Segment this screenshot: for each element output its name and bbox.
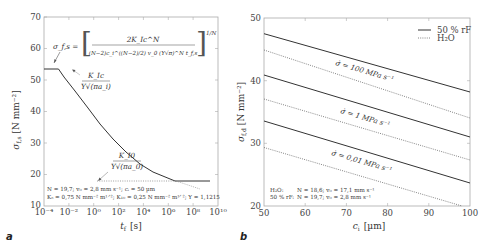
y-tick-label: 40 [250,76,261,86]
param-label-rf: 50 % rF: [270,194,294,200]
y-tick-label: 40 [30,106,41,116]
param-line-1: N = 19,7; v₀ = 2,8 mm s⁻¹; cᵢ = 50 µm [47,186,156,193]
ki0-numerator: K_I0 [118,151,136,160]
param-label-h2o: H₂O: [270,187,284,193]
y-tick-label: 60 [30,43,41,53]
x-tick-label: 90 [423,208,434,218]
line-rf-001 [264,121,470,183]
param-line-2: Kₒ = 0,75 N mm⁻² m¹ᐟ²; K₁₀ = 0,25 N mm⁻²… [47,194,220,200]
x-tick-label: 10⁸ [186,207,201,217]
x-tick-label: 80 [382,208,393,218]
rate-label-1: σ̇ = 1 MPa s⁻¹ [339,106,391,129]
x-tick-label: 70 [341,208,352,218]
panel-label-a: a [6,231,13,242]
x-tick-label: 100 [462,208,478,218]
formula-denominator: (N−2)c_i^((N−2)/2) v_0 (Y√π)^N t_f,s [89,50,198,57]
formula-exponent: 1/N [206,30,217,36]
panel-a: 10 20 30 40 50 60 70 10⁻⁴ 10⁻² 10⁰ 10² 1… [6,12,227,242]
x-tick-label: 10⁶ [161,207,176,217]
kic-denominator: Y√(πa_i) [81,82,111,91]
formula-annotation: σ_f,s = [ 2K_Ic^N (N−2)c_i^((N−2)/2) v_0… [53,26,217,63]
y-tick-label: 30 [250,138,261,148]
arrowhead-icon [72,70,76,73]
extrapolation-line [176,181,200,189]
formula-numerator: 2K_Ic^N [126,35,160,44]
x-tick-label: 10⁰ [87,207,102,217]
panel-b: 20 30 40 50 50 60 70 80 90 100 σ̇ = 100 … [236,13,478,242]
kic-numerator: K_Ic [87,71,104,80]
formula-lhs: σ_f,s = [53,42,78,51]
y-tick-label: 30 [30,138,41,148]
plot-frame-b [264,18,470,206]
x-tick-label: 50 [259,208,270,218]
line-h2o-1 [264,99,470,160]
param-line-rf: N = 19,7; v₀ = 2,8 mm s⁻¹ [297,194,371,200]
y-tick-label: 50 [30,75,41,85]
ki0-annotation: K_I0 Y√(πa_0) [98,151,143,181]
y-tick-label: 20 [30,169,41,179]
figure: 10 20 30 40 50 60 70 10⁻⁴ 10⁻² 10⁰ 10² 1… [0,0,488,245]
panel-label-b: b [240,231,247,242]
ki0-denominator: Y√(πa_0) [111,162,143,171]
x-axis-label-b: ci[µm] [353,221,385,232]
y-axis-label-a: σf,s[N mm⁻²] [11,90,22,149]
x-tick-label: 10² [111,207,125,217]
ticks-b [264,18,470,206]
param-line-h2o: N = 18,6; v₀ = 17,1 mm s⁻¹ [297,187,375,193]
legend-label-h2o: H₂O [437,33,455,43]
x-tick-label: 10⁻⁴ [35,207,54,217]
x-tick-label: 10⁴ [136,207,151,217]
x-tick-label: 10¹⁰ [209,207,227,217]
legend: 50 % rF H₂O [418,25,471,43]
x-axis-label-a: tf[s] [120,221,142,232]
x-tick-label: 60 [300,208,311,218]
y-axis-label-b: σf,d[N mm⁻²] [236,82,247,142]
kic-annotation: K_Ic Y√(πa_i) [72,70,111,92]
y-tick-label: 50 [250,13,261,23]
y-tick-label: 70 [30,12,41,22]
x-tick-label: 10⁻² [60,207,79,217]
